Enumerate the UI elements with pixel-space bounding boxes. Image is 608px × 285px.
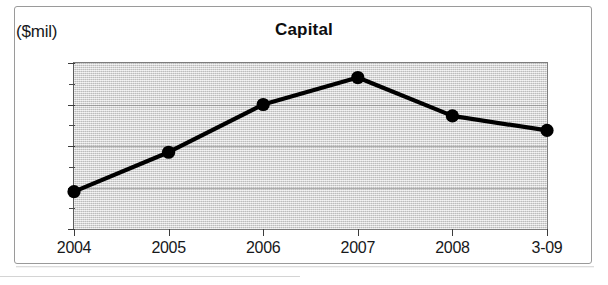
data-point-marker — [446, 109, 459, 122]
data-point-marker — [540, 124, 553, 137]
x-axis-tick-label: 2007 — [341, 239, 375, 257]
data-point-marker — [257, 98, 270, 111]
x-axis-tick-label: 2004 — [57, 239, 91, 257]
data-point-marker — [162, 146, 175, 159]
series-line — [74, 78, 547, 192]
data-point-marker — [67, 185, 80, 198]
data-point-marker — [351, 71, 364, 84]
x-axis-tick-label: 2008 — [435, 239, 469, 257]
x-axis-tick-label: 2005 — [151, 239, 185, 257]
x-axis-tick-label: 3-09 — [532, 239, 563, 257]
x-axis-tick-label: 2006 — [246, 239, 280, 257]
plot-area: 120140160180200 200420052006200720083-09 — [73, 62, 548, 230]
scan-shadow — [16, 266, 594, 268]
chart-title: Capital — [0, 20, 608, 40]
scan-shadow-secondary — [0, 276, 300, 277]
data-series-capital — [62, 51, 559, 241]
